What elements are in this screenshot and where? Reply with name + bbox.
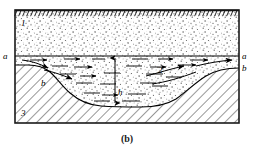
figure-container: 1 2 3 a a b b h (b): [0, 0, 254, 160]
boundary-label-b-curve: b: [41, 78, 46, 88]
region-1-upper-layer: [15, 10, 239, 56]
boundary-label-a-right: a: [242, 51, 247, 61]
region-label-1: 1: [21, 18, 26, 28]
dimension-label-h: h: [118, 87, 123, 97]
region-label-2: 2: [158, 65, 163, 75]
boundary-label-b-right: b: [242, 63, 247, 73]
region-label-3: 3: [20, 108, 26, 118]
boundary-label-a-left: a: [3, 51, 8, 61]
figure-caption: (b): [0, 133, 254, 144]
